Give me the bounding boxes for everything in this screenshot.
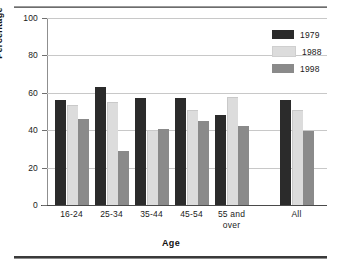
bar-1988-16-24 xyxy=(67,105,78,205)
y-tick-label: 60 xyxy=(14,88,38,98)
bar-1988-45-54 xyxy=(187,110,198,205)
x-axis-line xyxy=(41,205,327,206)
legend-item-1988: 1988 xyxy=(272,45,322,58)
legend-item-1998: 1998 xyxy=(272,62,322,75)
bar-1988-25-34 xyxy=(107,102,118,205)
bar-1979-55-and-over xyxy=(215,115,226,205)
bar-1998-35-44 xyxy=(158,129,169,205)
y-tick-label: 0 xyxy=(14,200,38,210)
y-tick-label: 40 xyxy=(14,125,38,135)
legend-label: 1998 xyxy=(300,64,320,74)
bar-1988-55-and-over xyxy=(227,97,238,205)
legend-swatch xyxy=(272,30,294,39)
y-tick-mark xyxy=(42,205,47,206)
x-tick-label-line: over xyxy=(197,220,267,231)
bar-1979-All xyxy=(280,100,291,205)
legend-swatch xyxy=(272,64,294,73)
y-tick-label: 80 xyxy=(14,50,38,60)
y-tick-label: 20 xyxy=(14,163,38,173)
bar-1979-16-24 xyxy=(55,100,66,205)
bar-1998-55-and-over xyxy=(238,126,249,205)
bar-1998-25-34 xyxy=(118,151,129,205)
bar-1979-25-34 xyxy=(95,87,106,205)
bar-1998-45-54 xyxy=(198,121,209,205)
x-tick-label-line: 55 and xyxy=(197,209,267,220)
chart-legend: 197919881998 xyxy=(272,28,322,79)
legend-item-1979: 1979 xyxy=(272,28,322,41)
top-rule xyxy=(14,6,327,8)
bar-1988-All xyxy=(292,110,303,205)
legend-swatch xyxy=(272,46,296,57)
x-tick-label: 55 andover xyxy=(197,209,267,231)
bar-1998-16-24 xyxy=(78,119,89,205)
x-axis-title: Age xyxy=(0,238,342,248)
bar-1979-45-54 xyxy=(175,98,186,205)
y-axis-title: Percentage xyxy=(0,0,4,78)
bottom-rule xyxy=(14,256,327,259)
x-tick-label-line: All xyxy=(262,209,332,220)
legend-label: 1988 xyxy=(302,47,322,57)
x-tick-label: All xyxy=(262,209,332,220)
bar-1998-All xyxy=(303,131,314,205)
bar-1979-35-44 xyxy=(135,98,146,205)
bar-1988-35-44 xyxy=(147,130,158,205)
legend-label: 1979 xyxy=(300,30,320,40)
y-tick-label: 100 xyxy=(14,13,38,23)
